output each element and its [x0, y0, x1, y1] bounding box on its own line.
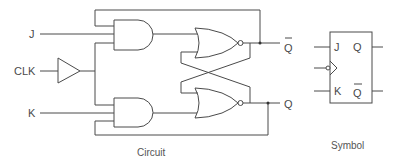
input-label-j: J	[29, 28, 35, 40]
circuit: J CLK K	[14, 10, 293, 158]
symbol-label-k: K	[334, 85, 342, 97]
clk-bus-wire	[95, 43, 114, 105]
nor-top-bubble-icon	[238, 41, 243, 46]
symbol-label-q: Q	[353, 41, 362, 53]
and-gate-top-icon	[114, 20, 153, 50]
buffer-gate-icon	[58, 58, 80, 83]
jk-flip-flop-diagram: J CLK K	[0, 0, 396, 165]
input-label-clk: CLK	[14, 65, 36, 77]
circuit-caption: Circuit	[137, 147, 166, 158]
symbol-label-j: J	[334, 41, 340, 53]
junction-dot-q	[267, 102, 270, 105]
nor-gate-top-icon	[195, 28, 238, 58]
symbol: J K Q Q Symbol	[314, 32, 383, 151]
junction-dot-qbar	[259, 42, 262, 45]
input-label-k: K	[28, 107, 36, 119]
symbol-label-qbar: Q	[353, 87, 362, 99]
nor-bottom-bubble-icon	[238, 101, 243, 106]
nor-gate-bottom-icon	[195, 88, 238, 118]
symbol-caption: Symbol	[331, 140, 364, 151]
output-label-qbar: Q	[284, 42, 293, 54]
and-gate-bottom-icon	[114, 98, 153, 127]
symbol-clk-bubble-icon	[326, 66, 330, 70]
output-label-q: Q	[284, 98, 293, 110]
